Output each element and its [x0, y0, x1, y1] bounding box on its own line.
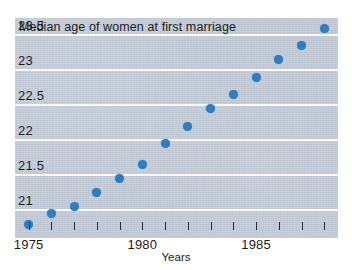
data-point [161, 139, 170, 148]
data-point [183, 122, 192, 131]
data-point [274, 55, 283, 64]
x-axis-tick [120, 222, 121, 230]
gridline [15, 139, 338, 141]
x-axis-tick [51, 222, 52, 230]
x-axis-tick [29, 222, 30, 230]
x-axis-tick [165, 222, 166, 230]
gridline [15, 104, 338, 106]
x-axis-tick [233, 222, 234, 230]
y-axis-tick-label: 22.5 [18, 88, 44, 103]
gridline [15, 34, 338, 36]
x-axis-tick [302, 222, 303, 230]
data-point [47, 209, 56, 218]
x-axis-tick-label: 1985 [241, 237, 271, 252]
x-axis-title: Years [162, 251, 191, 263]
x-axis-tick-label: 1975 [14, 237, 44, 252]
x-axis-tick [279, 222, 280, 230]
y-axis-tick-label: 23 [18, 53, 33, 68]
chart-figure: 2121.52222.52323.5 Median age of women a… [0, 0, 352, 270]
data-point [297, 41, 306, 50]
data-point [92, 188, 101, 197]
data-point [229, 90, 238, 99]
x-axis-tick [74, 222, 75, 230]
x-axis-tick [142, 222, 143, 230]
gridline [15, 174, 338, 176]
y-axis-tick-label: 21 [18, 193, 33, 208]
y-axis-tick-label: 22 [18, 123, 33, 138]
x-axis-tick [324, 222, 325, 230]
plot-area: 2121.52222.52323.5 Median age of women a… [15, 18, 338, 238]
gridline [15, 69, 338, 71]
data-point [206, 104, 215, 113]
data-point [138, 160, 147, 169]
chart-title: Median age of women at first marriage [19, 20, 236, 34]
x-axis-tick-label: 1980 [128, 237, 158, 252]
x-axis-tick [211, 222, 212, 230]
y-axis-tick-label: 21.5 [18, 158, 44, 173]
gridline [15, 209, 338, 211]
data-point [252, 73, 261, 82]
paper-texture-overlay [15, 18, 338, 238]
x-axis-tick [97, 222, 98, 230]
data-point [70, 202, 79, 211]
x-axis-tick [256, 222, 257, 230]
x-axis-tick [188, 222, 189, 230]
data-point [115, 174, 124, 183]
data-point [320, 24, 329, 33]
